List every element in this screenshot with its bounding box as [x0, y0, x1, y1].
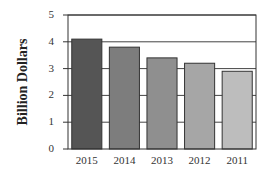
bar-2013 [147, 58, 177, 149]
bar-chart: Billion Dollars 012345 20152014201320122… [0, 0, 263, 171]
bar-2011 [222, 71, 252, 149]
bar-2015 [72, 39, 102, 149]
y-tick-label: 2 [40, 88, 54, 100]
x-tick-label: 2015 [69, 154, 105, 166]
bar-2012 [185, 63, 215, 149]
y-tick-label: 4 [40, 35, 54, 47]
y-axis-label: Billion Dollars [15, 27, 31, 137]
y-tick-label: 5 [40, 8, 54, 20]
y-tick-label: 3 [40, 62, 54, 74]
x-tick-label: 2012 [182, 154, 218, 166]
bar-2014 [109, 47, 139, 149]
x-tick-label: 2014 [106, 154, 142, 166]
y-tick-label: 1 [40, 115, 54, 127]
x-tick-label: 2013 [144, 154, 180, 166]
x-tick-label: 2011 [219, 154, 255, 166]
y-tick-label: 0 [40, 142, 54, 154]
